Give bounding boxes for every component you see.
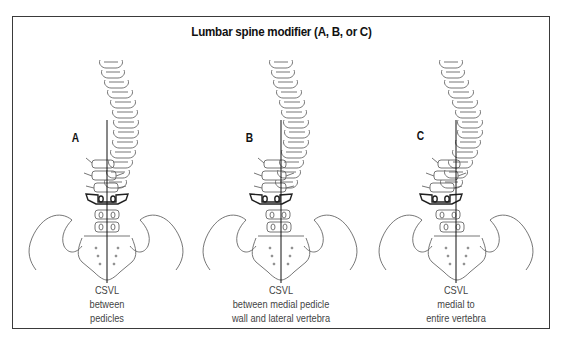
caption-c: CSVL medial to entire vertebra [377, 283, 535, 325]
caption-b: CSVL between medial pedicle wall and lat… [202, 283, 360, 325]
caption-line: between [28, 297, 186, 311]
modifier-letter: B [246, 131, 253, 145]
caption-line: CSVL [202, 283, 360, 297]
panel-a: A [20, 40, 200, 285]
modifier-letter: A [72, 131, 79, 145]
spine-illustration-icon [20, 40, 200, 285]
caption-line: CSVL [28, 283, 186, 297]
caption-line: between medial pedicle [202, 297, 360, 311]
modifier-letter: C [417, 129, 424, 143]
caption-line: entire vertebra [377, 311, 535, 325]
panel-b: B [190, 40, 370, 285]
panel-c: C [370, 40, 550, 285]
spine-illustration-icon [190, 40, 370, 285]
figure-title: Lumbar spine modifier (A, B, or C) [39, 24, 523, 39]
caption-line: medial to [377, 297, 535, 311]
spine-illustration-icon [370, 40, 550, 285]
caption-line: CSVL [377, 283, 535, 297]
caption-line: pedicles [28, 311, 186, 325]
caption-line: wall and lateral vertebra [202, 311, 360, 325]
caption-a: CSVL between pedicles [28, 283, 186, 325]
